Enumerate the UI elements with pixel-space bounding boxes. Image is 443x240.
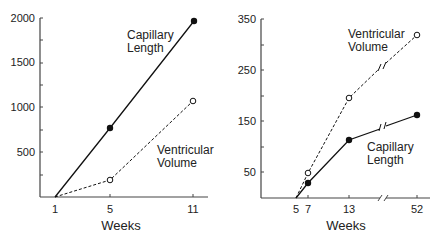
left-xtick-5: 5 xyxy=(107,203,113,215)
right-ytick-50: 50 xyxy=(244,166,256,178)
left-cl-point xyxy=(107,125,113,131)
left-annotation-capillary: Capillary xyxy=(127,28,174,42)
left-ytick-500: 500 xyxy=(17,146,35,158)
left-ytick-2000: 2000 xyxy=(11,12,35,24)
left-series-capillary-length xyxy=(55,21,194,197)
left-chart: 2000 1500 1000 500 1 5 11 Weeks Capillar… xyxy=(11,12,214,233)
right-xtick-5: 5 xyxy=(293,203,299,215)
right-vv-point xyxy=(414,32,420,38)
right-cl-point xyxy=(414,112,420,118)
left-annotation-volume: Volume xyxy=(157,156,197,170)
right-chart: 350 250 150 50 5 7 13 52 Weeks Ventricul… xyxy=(238,13,430,233)
right-annotation-ventricular: Ventricular xyxy=(348,27,405,41)
left-annotation-length: Length xyxy=(127,41,164,55)
right-vv-break-icon xyxy=(378,62,386,71)
right-series-capillary-length-after-break xyxy=(386,115,417,126)
figure: 2000 1500 1000 500 1 5 11 Weeks Capillar… xyxy=(0,0,443,240)
right-ytick-250: 250 xyxy=(238,64,256,76)
right-annotation-length: Length xyxy=(367,153,404,167)
right-vv-point xyxy=(346,95,352,101)
left-ytick-1000: 1000 xyxy=(11,101,35,113)
right-annotation-volume: Volume xyxy=(348,40,388,54)
left-cl-point xyxy=(191,18,197,24)
right-vv-point xyxy=(305,170,311,176)
right-cl-point xyxy=(346,137,352,143)
left-vv-point xyxy=(190,98,196,104)
right-xtick-13: 13 xyxy=(343,203,355,215)
right-xtick-7: 7 xyxy=(305,203,311,215)
left-ytick-1500: 1500 xyxy=(11,56,35,68)
left-xtick-11: 11 xyxy=(187,203,198,215)
right-xtick-52: 52 xyxy=(411,203,423,215)
right-cl-point xyxy=(305,180,311,186)
right-ytick-150: 150 xyxy=(238,115,256,127)
left-x-axis-title: Weeks xyxy=(101,218,141,233)
right-x-axis-break-icon xyxy=(378,195,388,201)
right-annotation-capillary: Capillary xyxy=(367,140,414,154)
left-annotation-ventricular: Ventricular xyxy=(157,143,214,157)
right-x-axis-title: Weeks xyxy=(326,218,366,233)
left-xtick-1: 1 xyxy=(52,203,58,215)
left-vv-point xyxy=(107,177,113,183)
right-ytick-350: 350 xyxy=(238,13,256,25)
